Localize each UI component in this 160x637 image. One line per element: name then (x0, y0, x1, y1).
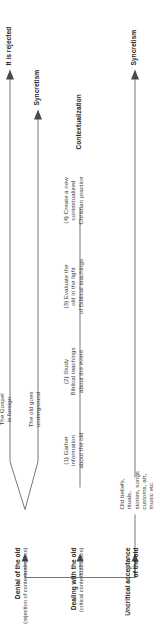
branch-heading-denial: Denial of the old (14, 547, 22, 637)
step-3-evaluate-the-old: (3) Evaluate the old in the light of Bib… (62, 243, 84, 329)
step-2-study-biblical-teachings: (2) Study Biblical teachings about the e… (62, 331, 84, 411)
branch-subheading-uncritical: of the old (132, 547, 140, 637)
denial-split-upper (10, 461, 25, 509)
terminal-syncretism-bottom: Syncretism (130, 0, 138, 65)
branch-heading-dealing: Dealing with the old (70, 547, 78, 637)
outcome-old-underground: The old goes underground (27, 369, 42, 449)
terminal-it-is-rejected: It is rejected (5, 0, 13, 65)
branch-subheading-denial: (rejection of contextualisation) (22, 547, 29, 637)
branch-subheading-dealing: (critical contextualisation) (78, 547, 85, 637)
outcome-gospel-foreign: The Gospel is foreign (0, 369, 13, 449)
rejected-arrow (6, 69, 14, 79)
terminal-syncretism-top: Syncretism (33, 35, 41, 105)
branch-heading-uncritical: Uncritical acceptance (124, 547, 132, 637)
diagram-canvas: Old beliefs, rituals, stories, songs cus… (0, 0, 160, 637)
step-1-gather-information: (1) Gather information about the old (62, 415, 84, 485)
denial-split-lower (25, 461, 38, 509)
syncretism-top-arrow (34, 109, 42, 119)
step-4-create-new-practice: (4) Create a new contextualized Christia… (62, 159, 84, 241)
syncretism-bottom-arrow (131, 69, 139, 79)
diagram-stage: Old beliefs, rituals, stories, songs cus… (0, 0, 160, 637)
source-node-old-practices: Old beliefs, rituals, stories, songs cus… (118, 417, 154, 509)
terminal-contextualization: Contextualization (75, 49, 83, 149)
